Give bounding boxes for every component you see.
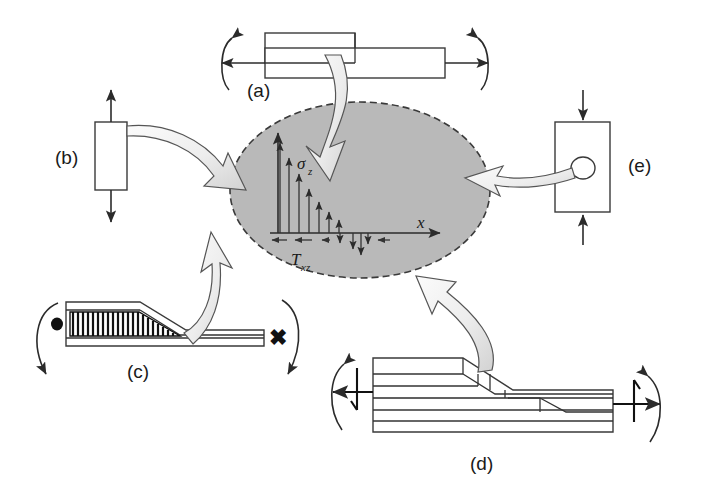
connector-b-to-center (127, 125, 246, 190)
panel-d-stepped-laminate: (d) (332, 358, 661, 474)
panel-a-left-moment-arc (222, 38, 232, 90)
stress-sources-diagram: σ z x T xz (a) (b) (0, 0, 702, 492)
panel-c-label: (c) (127, 361, 149, 382)
center-ellipse-group: σ z x T xz (230, 102, 490, 278)
interlaminar-stress-ellipse (230, 102, 490, 278)
tau-xz-label-subscript: xz (300, 261, 311, 273)
panel-c-tapered-laminate: ✖ (c) (37, 300, 299, 382)
panel-b-coupon (95, 122, 127, 190)
panel-d-right-force-moment (613, 376, 660, 442)
sigma-z-label-subscript: z (307, 165, 313, 177)
panel-b-label: (b) (55, 147, 78, 168)
connector-c-to-center (184, 232, 232, 344)
sigma-z-label: σ (297, 154, 306, 173)
panel-c-support-dot (51, 318, 63, 331)
panel-b-tension-coupon: (b) (55, 90, 127, 222)
panel-d-label: (d) (470, 453, 493, 474)
panel-d-left-force-moment (332, 364, 373, 430)
panel-e-plate-with-hole: (e) (555, 90, 651, 245)
panel-a-right-moment-arc (478, 38, 488, 90)
panel-c-cross-marker: ✖ (269, 325, 287, 350)
panel-e-label: (e) (628, 155, 651, 176)
panel-a-label: (a) (247, 80, 270, 101)
figure-root: σ z x T xz (a) (b) (0, 0, 702, 492)
panel-a-lap-joint: (a) (222, 33, 488, 101)
panel-c-left-curved-arrow (37, 303, 58, 374)
x-axis-label: x (416, 213, 425, 232)
